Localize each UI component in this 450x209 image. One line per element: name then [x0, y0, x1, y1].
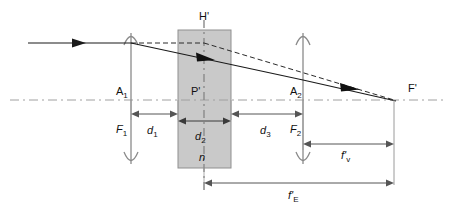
label-back-focal: f'v — [341, 149, 350, 164]
label-image-focus: F' — [408, 82, 417, 94]
label-lens1-focal: F1 — [116, 123, 128, 138]
dim-fE-arrow-left-icon — [204, 180, 212, 187]
label-lens1-vertex: A1 — [116, 85, 128, 100]
dim-d1-arrow-right-icon — [170, 111, 178, 118]
label-lens2-vertex: A2 — [290, 85, 302, 100]
label-lens2-focal: F2 — [290, 123, 302, 138]
dim-fv-arrow-left-icon — [303, 141, 311, 148]
label-effective-focal: f'E — [288, 189, 299, 204]
dim-fv-arrow-right-icon — [386, 141, 394, 148]
dim-d1-arrow-left-icon — [131, 111, 139, 118]
dim-fE-arrow-right-icon — [386, 180, 394, 187]
optical-ray-diagram: H' A1 A2 F1 F2 P' F' d1 d2 d3 n f'v f'E — [0, 0, 450, 209]
label-refractive-index: n — [199, 151, 205, 163]
label-principal-plane: H' — [199, 10, 209, 22]
label-principal-point: P' — [191, 85, 200, 97]
dim-d3-arrow-left-icon — [231, 111, 239, 118]
label-gap-d3: d3 — [260, 124, 271, 139]
label-gap-d1: d1 — [147, 124, 158, 139]
incoming-ray-arrow-icon — [72, 39, 86, 48]
exit-ray-arrow-icon — [340, 83, 360, 92]
dim-d3-arrow-right-icon — [295, 111, 303, 118]
